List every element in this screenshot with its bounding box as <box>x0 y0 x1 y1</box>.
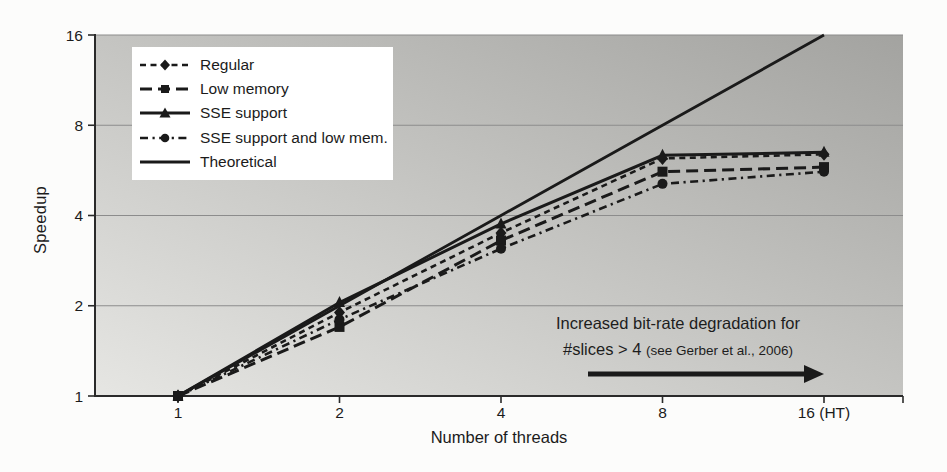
y-axis-title: Speedup <box>31 186 50 254</box>
x-axis-title: Number of threads <box>95 428 903 447</box>
legend-line-sample <box>139 155 191 169</box>
legend-item-theoretical: Theoretical <box>139 153 389 171</box>
series-low-memory-marker-square <box>658 167 668 177</box>
legend-item-regular: Regular <box>139 56 389 74</box>
x-tick-label-1: 1 <box>174 404 183 421</box>
legend-label: Low memory <box>200 80 289 98</box>
series-sse-support-and-low-mem-marker-circle <box>819 167 829 177</box>
annotation-line2-note: (see Gerber et al., 2006) <box>646 343 793 358</box>
series-sse-support-and-low-mem-marker-circle <box>496 244 506 254</box>
annotation-line2-main: #slices > 4 <box>563 340 646 358</box>
legend-label: Theoretical <box>200 153 277 171</box>
annotation-line2: #slices > 4 (see Gerber et al., 2006) <box>520 336 836 364</box>
legend: RegularLow memorySSE supportSSE support … <box>132 47 393 180</box>
square-marker-icon <box>161 85 169 93</box>
series-sse-support-and-low-mem-marker-circle <box>658 179 668 189</box>
legend-item-low-memory: Low memory <box>139 80 389 98</box>
annotation: Increased bit-rate degradation for #slic… <box>520 310 836 364</box>
x-tick-label-8: 8 <box>658 404 667 421</box>
legend-line-sample <box>139 131 191 145</box>
annotation-line1: Increased bit-rate degradation for <box>520 310 836 336</box>
legend-item-sse-support: SSE support <box>139 104 389 122</box>
x-tick-label-2: 2 <box>335 404 344 421</box>
y-tick-label-16: 16 <box>66 27 83 44</box>
legend-label: Regular <box>200 56 254 74</box>
legend-line-sample <box>139 82 191 96</box>
x-tick-label-4: 4 <box>497 404 506 421</box>
legend-line-sample <box>139 58 191 72</box>
y-tick-label-4: 4 <box>74 207 83 224</box>
diamond-marker-icon <box>160 60 170 71</box>
legend-line-sample <box>139 106 191 120</box>
legend-label: SSE support <box>200 104 287 122</box>
speedup-figure: 124816124816 (HT) RegularLow memorySSE s… <box>0 0 947 472</box>
legend-label: SSE support and low mem. <box>200 129 388 147</box>
circle-marker-icon <box>161 133 170 142</box>
y-tick-label-1: 1 <box>74 388 83 405</box>
y-tick-label-2: 2 <box>74 297 83 314</box>
y-tick-label-8: 8 <box>74 117 83 134</box>
x-tick-label-16: 16 (HT) <box>798 404 851 421</box>
legend-item-sse-support-and-low-mem: SSE support and low mem. <box>139 129 389 147</box>
series-sse-support-and-low-mem-marker-circle <box>335 314 345 324</box>
